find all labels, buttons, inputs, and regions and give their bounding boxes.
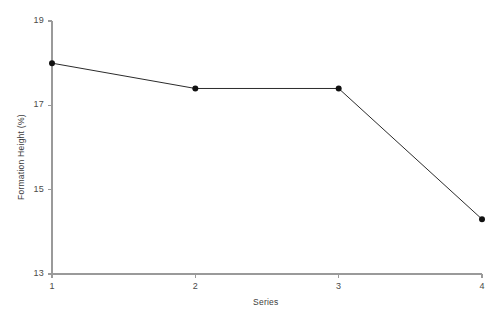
x-axis-tick-label: 4 [467,282,495,291]
line-chart-figure: 19171513 1234 Formation Height (%) Serie… [0,0,495,313]
data-point-markers [49,60,485,222]
y-axis-tick-label: 19 [14,16,44,25]
y-axis-tick-label: 13 [14,269,44,278]
x-axis-tick-label: 3 [324,282,354,291]
x-axis-title: Series [253,298,279,307]
x-axis-tick-label: 2 [180,282,210,291]
y-axis-tick-label: 17 [14,100,44,109]
chart-axes [48,21,482,278]
y-axis-title: Formation Height (%) [17,114,26,200]
x-axis-tick-label: 1 [37,282,67,291]
chart-plot-area [0,0,495,313]
data-series-line [52,63,482,219]
